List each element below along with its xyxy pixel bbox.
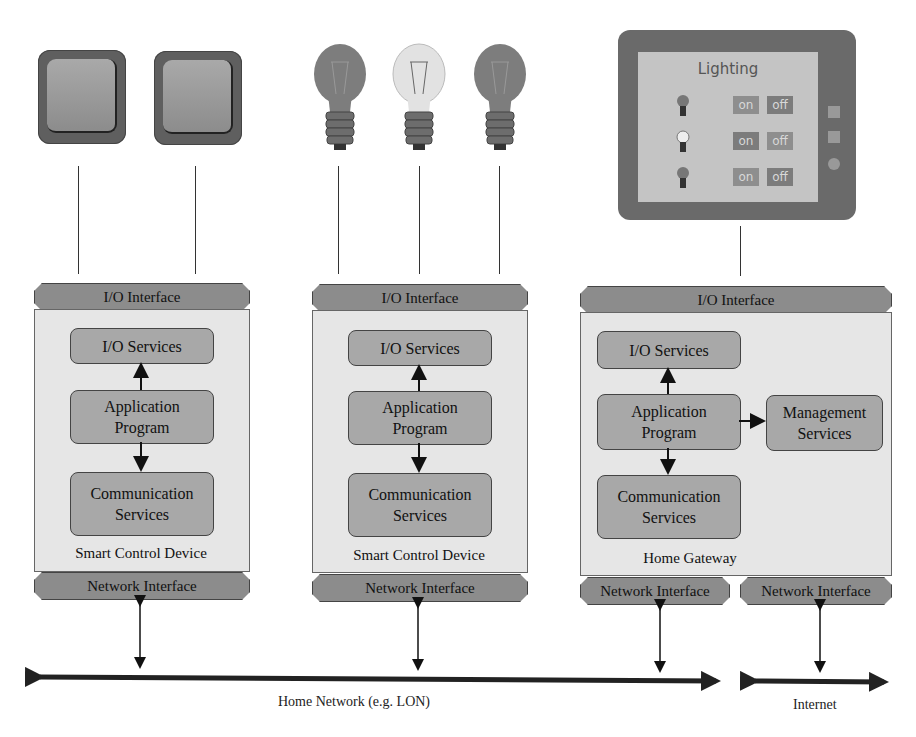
home-network-label: Home Network (e.g. LON) [278, 694, 430, 710]
internet-label: Internet [793, 697, 837, 713]
diagram-arrows [0, 0, 916, 737]
